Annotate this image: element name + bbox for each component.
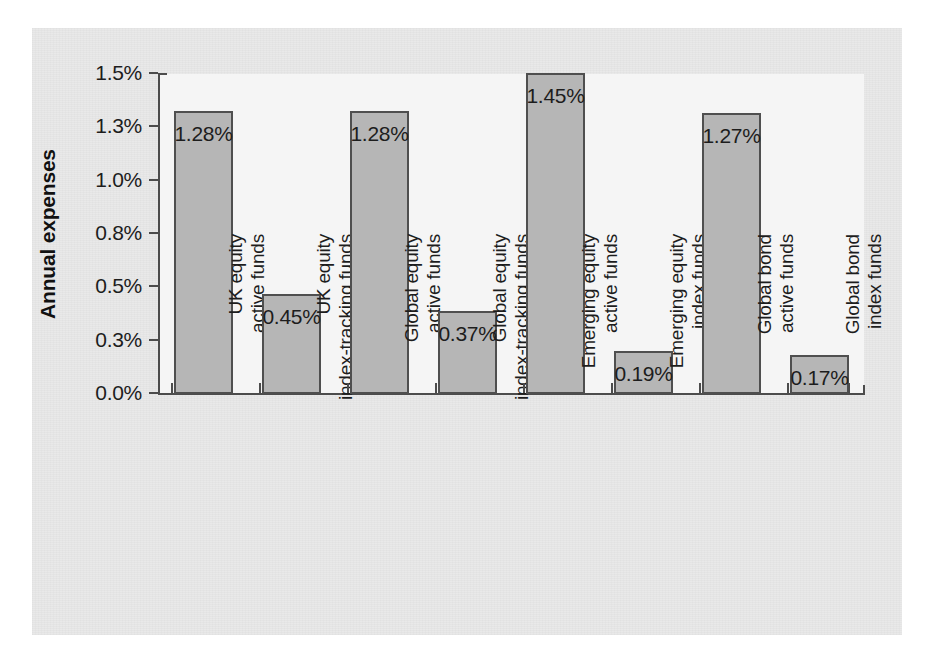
x-axis-category-line-1: UK equity xyxy=(225,234,247,404)
y-axis-tick xyxy=(149,72,158,74)
y-axis-tick-label: 0.0% xyxy=(80,382,142,404)
x-axis-category-label: Global bondindex funds xyxy=(842,234,886,404)
y-axis-tick-label-text: 1.5% xyxy=(82,62,142,83)
x-axis-category-line-1: Emerging equity xyxy=(578,234,600,404)
y-axis-tick xyxy=(149,125,158,127)
bar xyxy=(702,113,761,394)
y-axis-tick xyxy=(149,179,158,181)
x-axis-category-line-1: Global bond xyxy=(842,234,864,404)
bar-value-label: 1.28% xyxy=(166,123,241,144)
y-axis-tick-label: 0.8% xyxy=(80,222,142,244)
y-axis-tick xyxy=(149,339,158,341)
x-axis-category-line-1: Global bond xyxy=(754,234,776,404)
x-axis-category-line-2: index funds xyxy=(864,234,886,404)
x-axis-tick xyxy=(171,383,173,393)
bar-chart: Annual expenses 1.5%1.3%1.0%0.8%0.5%0.3%… xyxy=(0,0,934,656)
x-axis-tick xyxy=(435,383,437,393)
x-axis-tick xyxy=(523,383,525,393)
y-axis-tick-label: 1.0% xyxy=(80,169,142,191)
y-axis-tick-label-text: 1.0% xyxy=(82,169,142,190)
bar-value-label: 1.28% xyxy=(342,123,417,144)
y-axis-tick-label-text: 1.3% xyxy=(82,115,142,136)
x-axis-tick xyxy=(787,383,789,393)
y-axis-tick-label: 1.3% xyxy=(80,115,142,137)
y-axis-tick-label-text: 0.8% xyxy=(82,222,142,243)
x-axis-tick xyxy=(848,383,850,393)
y-axis-tick-label: 0.5% xyxy=(80,275,142,297)
x-axis-category-line-1: UK equity xyxy=(313,234,335,404)
y-axis-tick-label-text: 0.5% xyxy=(82,275,142,296)
x-axis-category-line-1: Global equity xyxy=(401,234,423,404)
y-axis-tick-label-text: 0.0% xyxy=(82,382,142,403)
y-axis-tick xyxy=(149,392,158,394)
bar-value-label: 1.45% xyxy=(518,85,593,106)
x-axis-tick xyxy=(699,383,701,393)
x-axis-tick xyxy=(347,383,349,393)
y-axis-tick-label: 1.5% xyxy=(80,62,142,84)
x-axis-tick xyxy=(611,383,613,393)
x-axis-tick xyxy=(259,383,261,393)
y-axis-top-cap xyxy=(158,73,167,75)
y-axis-line xyxy=(158,73,160,395)
x-axis-category-line-1: Emerging equity xyxy=(666,234,688,404)
bar xyxy=(526,73,585,394)
y-axis-title: Annual expenses xyxy=(36,144,60,324)
y-axis-tick xyxy=(149,232,158,234)
y-axis-tick-label-text: 0.3% xyxy=(82,329,142,350)
y-axis-tick xyxy=(149,285,158,287)
y-axis-tick-label: 0.3% xyxy=(80,329,142,351)
x-axis-category-line-1: Global equity xyxy=(489,234,511,404)
bar-value-label: 1.27% xyxy=(694,125,769,146)
